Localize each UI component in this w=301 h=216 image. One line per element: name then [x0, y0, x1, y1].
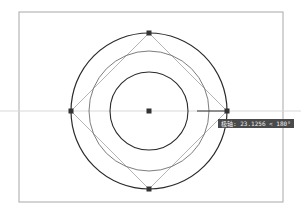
grip-left[interactable]	[69, 109, 74, 114]
grip-center[interactable]	[147, 109, 152, 114]
polar-tracking-tooltip: 极轴: 23.1256 < 180°	[218, 119, 294, 128]
grip-right[interactable]	[225, 109, 230, 114]
grip-top[interactable]	[147, 31, 152, 36]
viewport-frame	[19, 12, 283, 202]
drawing-canvas[interactable]	[0, 0, 301, 216]
grip-bottom[interactable]	[147, 187, 152, 192]
